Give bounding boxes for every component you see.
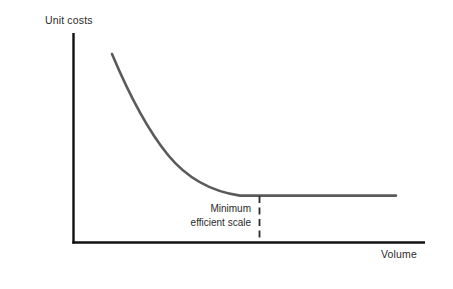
unit-cost-curve [112,54,396,196]
chart-canvas [0,0,453,289]
x-axis-label: Volume [381,248,417,260]
annotation-line-2: efficient scale [120,216,251,230]
figure-caption-bar: FIGURE 13.2 [0,262,453,289]
figure-container: Unit costs Volume Minimum efficient scal… [0,0,453,289]
y-axis-label: Unit costs [45,14,93,26]
minimum-efficient-scale-annotation: Minimum efficient scale [120,202,251,229]
annotation-line-1: Minimum [120,202,251,216]
